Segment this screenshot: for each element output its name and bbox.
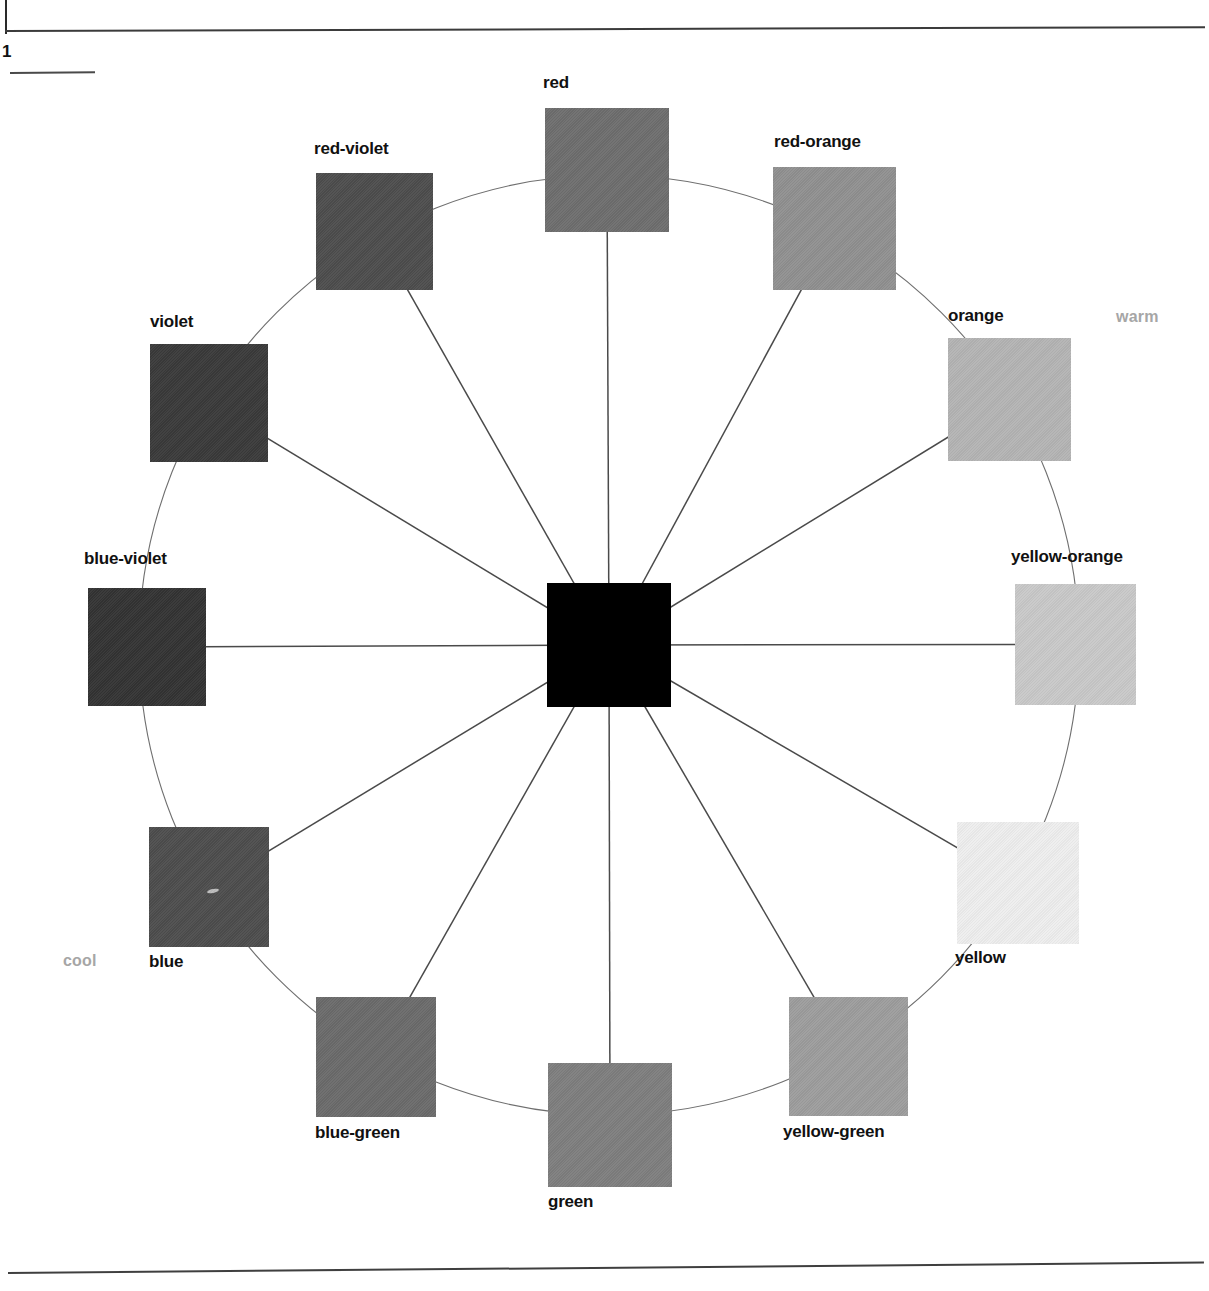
swatch-yellow[interactable] — [957, 822, 1079, 944]
label-violet: violet — [150, 312, 193, 332]
spoke-yellow-orange — [609, 645, 1076, 646]
swatch-blue[interactable] — [149, 827, 269, 947]
spoke-red — [607, 170, 609, 645]
label-blue-green: blue-green — [315, 1123, 400, 1143]
swatch-green[interactable] — [548, 1063, 672, 1187]
swatch-red-orange[interactable] — [773, 167, 896, 290]
swatch-orange[interactable] — [948, 338, 1071, 461]
swatch-blue-green[interactable] — [316, 997, 436, 1117]
color-wheel-figure: redred-orangeorangeyellow-orangeyellowye… — [0, 0, 1209, 1291]
swatch-violet[interactable] — [150, 344, 268, 462]
scanned-page: 1 redred-orangeorangeyellow-orangeyellow… — [0, 0, 1209, 1291]
label-red-orange: red-orange — [774, 132, 861, 152]
temperature-label-warm: warm — [1116, 308, 1159, 326]
swatch-red-violet[interactable] — [316, 173, 433, 290]
label-red-violet: red-violet — [314, 139, 389, 159]
label-orange: orange — [948, 306, 1003, 326]
swatch-blue-violet[interactable] — [88, 588, 206, 706]
label-blue-violet: blue-violet — [84, 549, 167, 569]
swatch-yellow-orange[interactable] — [1015, 584, 1136, 705]
spoke-green — [609, 645, 610, 1125]
label-yellow: yellow — [955, 948, 1006, 968]
label-red: red — [543, 73, 569, 93]
scan-speck-artifact — [206, 888, 219, 894]
label-blue: blue — [149, 952, 183, 972]
label-yellow-orange: yellow-orange — [1011, 547, 1123, 567]
swatch-red[interactable] — [545, 108, 669, 232]
swatch-yellow-green[interactable] — [789, 997, 908, 1116]
spoke-blue-violet — [147, 645, 609, 647]
temperature-label-cool: cool — [63, 952, 97, 970]
center-square[interactable] — [547, 583, 671, 707]
label-green: green — [548, 1192, 593, 1212]
label-yellow-green: yellow-green — [783, 1122, 885, 1142]
